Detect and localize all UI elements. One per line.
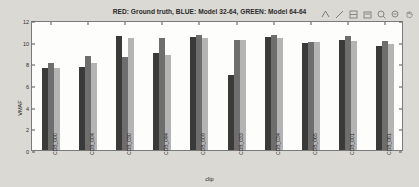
- plot-area: VMAF 024681012: [31, 21, 403, 151]
- x-tick-label: CDB_030: [126, 133, 132, 155]
- insert-colorbar-icon[interactable]: [348, 9, 359, 20]
- y-tick-label: 12: [17, 19, 29, 25]
- figure-window: RED: Ground truth, BLUE: Model 32-64, GR…: [0, 0, 419, 187]
- zoom-in-icon[interactable]: [376, 9, 387, 20]
- bar-group: [69, 22, 106, 150]
- bar-series-container: [32, 22, 402, 150]
- y-tick-mark: [32, 152, 35, 153]
- x-tick-label: CDB_000: [52, 133, 58, 155]
- bar-group: [255, 22, 292, 150]
- x-tick-label: CDB_065: [312, 133, 318, 155]
- bar-group: [218, 22, 255, 150]
- x-tick-label: CDB_061: [386, 133, 392, 155]
- zoom-out-icon[interactable]: [390, 9, 401, 20]
- bar-group: [144, 22, 181, 150]
- y-tick-label: 2: [17, 127, 29, 133]
- y-tick-label: 10: [17, 41, 29, 47]
- bar-group: [106, 22, 143, 150]
- y-tick-label: 6: [17, 84, 29, 90]
- y-tick-label: 0: [17, 149, 29, 155]
- insert-line-icon[interactable]: [334, 9, 345, 20]
- data-cursor-icon[interactable]: [320, 9, 331, 20]
- figure-toolbar[interactable]: [320, 8, 415, 21]
- x-axis-label: clip: [0, 176, 419, 182]
- bar-group: [330, 22, 367, 150]
- bar-group: [181, 22, 218, 150]
- y-tick-mark-right: [399, 152, 402, 153]
- x-tick-label: CDB_044: [163, 133, 169, 155]
- y-tick-label: 8: [17, 62, 29, 68]
- bar-group: [367, 22, 404, 150]
- x-tick-label: CDB_034: [275, 133, 281, 155]
- x-tick-label: CDB_009: [200, 133, 206, 155]
- bar-group: [292, 22, 329, 150]
- insert-legend-icon[interactable]: [362, 9, 373, 20]
- bar-group: [32, 22, 69, 150]
- x-tick-label: CDB_033: [238, 133, 244, 155]
- x-tick-label: CDB_004: [89, 133, 95, 155]
- x-tick-label: CDB_001: [349, 133, 355, 155]
- pan-icon[interactable]: [404, 9, 415, 20]
- y-tick-label: 4: [17, 106, 29, 112]
